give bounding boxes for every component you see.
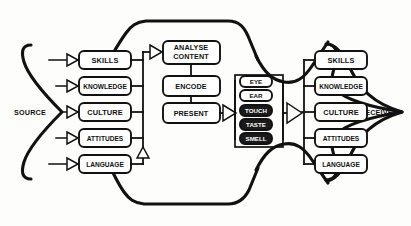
source-attribute-culture[interactable]: CULTURE xyxy=(79,103,131,121)
process-step-present-label: PRESENT xyxy=(174,109,209,118)
arrowhead-source-culture xyxy=(67,106,78,118)
communication-model-diagram: SOURCE RECEIVER SKILLS xyxy=(0,0,411,226)
source-attribute-skills-label: SKILLS xyxy=(92,56,119,65)
arrowhead-source-attitudes xyxy=(67,132,78,144)
receiver-attribute-language-label: LANGUAGE xyxy=(322,161,360,168)
source-attribute-attitudes-label: ATTITUDES xyxy=(87,135,124,142)
sense-smell[interactable]: SMELL xyxy=(240,133,272,144)
source-attribute-skills[interactable]: SKILLS xyxy=(79,51,131,69)
receiver-attribute-boxes: SKILLS KNOWLEDGE CULTURE ATTITUDES LANGU… xyxy=(315,51,367,173)
receiver-attribute-skills-label: SKILLS xyxy=(328,56,355,65)
receiver-attribute-knowledge-label: KNOWLEDGE xyxy=(319,83,363,90)
sense-ear-label: EAR xyxy=(249,92,263,99)
arrowhead-source-knowledge xyxy=(67,80,78,92)
sense-taste-label: TASTE xyxy=(246,121,266,128)
arrowhead-senses-to-receiver xyxy=(287,103,302,123)
arrowhead-present-to-senses xyxy=(223,105,236,121)
process-step-encode[interactable]: ENCODE xyxy=(163,76,220,96)
process-step-analyse-content[interactable]: ANALYSE CONTENT xyxy=(163,41,220,64)
process-step-analyse-content-line2: CONTENT xyxy=(173,52,209,61)
process-step-analyse-content-line1: ANALYSE xyxy=(174,43,208,52)
process-step-present[interactable]: PRESENT xyxy=(163,103,220,123)
receiver-attribute-culture[interactable]: CULTURE xyxy=(315,103,367,121)
process-steps: ANALYSE CONTENT ENCODE PRESENT xyxy=(163,41,236,123)
source-attribute-knowledge[interactable]: KNOWLEDGE xyxy=(79,77,131,95)
source-attribute-language-label: LANGUAGE xyxy=(86,161,124,168)
senses-channel: EYE EAR TOUCH TASTE SMELL xyxy=(235,75,302,147)
source-label: SOURCE xyxy=(14,108,46,117)
sense-eye-label: EYE xyxy=(250,78,262,85)
receiver-attribute-language[interactable]: LANGUAGE xyxy=(315,155,367,173)
arrowhead-feedback-up xyxy=(137,147,149,158)
sense-ear[interactable]: EAR xyxy=(240,90,272,101)
source-collector-bus xyxy=(131,45,162,164)
receiver-attribute-knowledge[interactable]: KNOWLEDGE xyxy=(315,77,367,95)
sense-smell-label: SMELL xyxy=(246,135,267,142)
arrowhead-source-language xyxy=(67,158,78,170)
process-step-encode-label: ENCODE xyxy=(175,82,206,91)
source-wedge: SOURCE xyxy=(14,45,62,179)
receiver-distributor-bus xyxy=(302,60,315,164)
source-attribute-attitudes[interactable]: ATTITUDES xyxy=(79,129,131,147)
source-attribute-boxes: SKILLS KNOWLEDGE CULTURE ATTITUDES LANGU… xyxy=(79,51,131,173)
receiver-attribute-culture-label: CULTURE xyxy=(323,108,358,117)
arrowhead-bus-to-analyse xyxy=(150,45,162,59)
sense-touch[interactable]: TOUCH xyxy=(240,105,272,116)
receiver-attribute-skills[interactable]: SKILLS xyxy=(315,51,367,69)
arrowhead-source-skills xyxy=(67,54,78,66)
sense-eye[interactable]: EYE xyxy=(240,76,272,87)
receiver-attribute-attitudes[interactable]: ATTITUDES xyxy=(315,129,367,147)
sense-touch-label: TOUCH xyxy=(245,107,267,114)
source-feeder-lines xyxy=(49,54,78,170)
source-attribute-culture-label: CULTURE xyxy=(87,108,122,117)
source-attribute-knowledge-label: KNOWLEDGE xyxy=(83,83,127,90)
receiver-attribute-attitudes-label: ATTITUDES xyxy=(323,135,360,142)
sense-taste[interactable]: TASTE xyxy=(240,119,272,130)
source-attribute-language[interactable]: LANGUAGE xyxy=(79,155,131,173)
diagram-canvas: SOURCE RECEIVER SKILLS xyxy=(0,0,411,226)
